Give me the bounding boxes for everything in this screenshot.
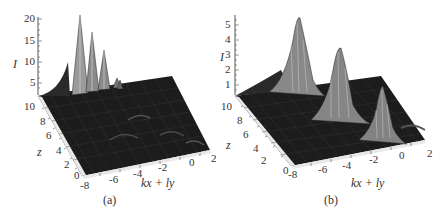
z-tick-5: 5 (225, 19, 231, 30)
z-tick-4: 4 (225, 34, 231, 45)
x-tick-neg8: -8 (288, 169, 297, 180)
z-tick-2: 2 (225, 64, 231, 75)
y-tick-4: 4 (56, 145, 62, 156)
x-axis-title: kx + ly (351, 176, 384, 191)
z-axis-title: I (220, 50, 224, 65)
y-axis-title: z (226, 138, 231, 153)
x-axis-title: kx + ly (141, 176, 174, 191)
x-tick-neg2: -2 (369, 154, 378, 165)
panel-caption: (a) (103, 193, 116, 208)
y-tick-6: 6 (243, 129, 249, 140)
x-tick-neg6: -6 (318, 164, 327, 175)
z-tick-10: 10 (24, 56, 35, 67)
x-tick-2: 2 (427, 148, 433, 159)
y-tick-8: 8 (40, 116, 46, 127)
x-tick-0: 0 (399, 150, 405, 161)
y-tick-2: 2 (261, 155, 267, 166)
x-tick-2: 2 (211, 153, 217, 164)
y-tick-6: 6 (46, 130, 52, 141)
z-tick-15: 15 (24, 35, 35, 46)
panel-caption: (b) (324, 193, 338, 208)
y-tick-2: 2 (64, 159, 70, 170)
x-tick-neg2: -2 (158, 162, 167, 173)
y-tick-4: 4 (253, 143, 259, 154)
x-tick-neg6: -6 (109, 174, 118, 185)
x-tick-0: 0 (189, 157, 195, 168)
z-tick-1: 1 (225, 79, 231, 90)
y-tick-8: 8 (237, 115, 243, 126)
z-tick-3: 3 (225, 49, 231, 60)
z-axis-title: I (13, 57, 17, 72)
y-tick-0: 0 (74, 170, 80, 181)
y-tick-10: 10 (221, 101, 232, 112)
y-axis-title: z (37, 145, 42, 160)
surface-graphic-b (221, 0, 442, 211)
y-tick-10: 10 (24, 101, 35, 112)
x-tick-neg8: -8 (80, 180, 89, 191)
z-tick-5: 5 (30, 77, 36, 88)
surface-plot-a: 20 15 10 5 I 10 8 6 4 2 0 z -8 -6 -4 -2 … (0, 0, 221, 211)
x-tick-neg4: -4 (342, 160, 351, 171)
z-tick-20: 20 (24, 13, 35, 24)
surface-plot-b: 5 4 3 2 1 I 10 8 6 4 2 0 z -8 -6 -4 -2 0… (221, 0, 442, 211)
